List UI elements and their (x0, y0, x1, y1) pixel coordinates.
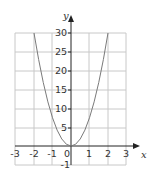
svg-text:15: 15 (55, 84, 67, 95)
x-axis-label: x (141, 149, 147, 160)
svg-text:2: 2 (105, 148, 111, 159)
svg-text:1: 1 (86, 148, 92, 159)
y-axis-label: y (62, 10, 69, 21)
svg-text:0: 0 (64, 148, 70, 159)
svg-text:25: 25 (55, 46, 67, 57)
svg-text:3: 3 (123, 148, 129, 159)
svg-text:30: 30 (55, 27, 67, 38)
axes (15, 18, 137, 165)
y-axis-arrow-icon (68, 15, 74, 22)
svg-text:-2: -2 (29, 148, 38, 159)
svg-text:20: 20 (55, 65, 67, 76)
svg-text:-3: -3 (10, 148, 19, 159)
x-axis-arrow-icon (133, 143, 140, 149)
parabola-chart: 30 25 20 15 10 5 -1 -3 -2 -1 0 1 2 3 x y (0, 0, 155, 176)
svg-text:10: 10 (55, 103, 67, 114)
svg-text:5: 5 (61, 122, 67, 133)
x-tick-labels: -3 -2 -1 0 1 2 3 (10, 148, 129, 159)
svg-text:-1: -1 (47, 148, 56, 159)
svg-text:-1: -1 (61, 159, 70, 170)
